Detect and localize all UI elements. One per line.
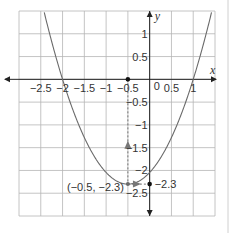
vertex-label: (−0.5, −2.3) [67, 181, 124, 193]
y-tick-label: −1.5 [126, 142, 148, 154]
y-tick-label: −2.5 [126, 187, 148, 199]
y-tick-label: 0.5 [132, 51, 147, 63]
x-tick-label: −2 [56, 82, 69, 94]
x-tick-label: −1.5 [73, 82, 95, 94]
y-tick-label: −2 [135, 164, 148, 176]
origin-label: 0 [154, 80, 160, 92]
y-axis-label: y [154, 9, 161, 23]
x-tick-label: 1 [190, 82, 196, 94]
x-tick-label: 0.5 [164, 82, 179, 94]
y-tick-label: 1 [142, 28, 148, 40]
min-value-label: −2.3 [155, 178, 177, 190]
y-tick-label: −0.5 [126, 96, 148, 108]
x-tick-label: −0.5 [117, 82, 139, 94]
point-marker [147, 182, 152, 187]
point-marker [126, 182, 130, 186]
x-axis-left-arrow-icon [4, 76, 10, 82]
y-axis-up-arrow-icon [147, 11, 153, 17]
x-axis-label: x [209, 63, 216, 77]
x-tick-label: −1 [100, 82, 113, 94]
x-tick-label: −2.5 [30, 82, 52, 94]
y-axis-down-arrow-icon [147, 210, 153, 216]
y-tick-label: −1 [135, 119, 148, 131]
parabola-chart: xy −2.5−2−1.5−1−0.50.51010.5−0.5−1−1.5−2… [0, 0, 230, 233]
point-marker [126, 77, 131, 82]
